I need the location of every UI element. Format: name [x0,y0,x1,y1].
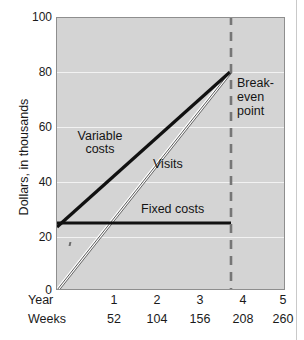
y-axis-tick-group: 100 80 60 40 20 0 [12,0,52,340]
x-tick-year-2: 2 [137,292,177,308]
y-tick-40: 40 [18,176,52,188]
x-axis-row-year: Year 1 2 3 4 5 [0,292,304,308]
break-even-point-label: Break- even point [237,76,299,118]
variable-costs-label: Variable costs [62,130,138,156]
x-tick-year-3: 3 [180,292,220,308]
x-tick-weeks-156: 156 [180,311,220,327]
y-tick-100: 100 [18,11,52,23]
break-even-chart-figure: Dollars, in thousands 100 80 60 40 20 0 [0,0,304,340]
visits-line-inner [57,72,230,290]
x-tick-year-4: 4 [223,292,263,308]
x-tick-weeks-260: 260 [263,311,303,327]
x-axis-row-year-label: Year [28,292,80,308]
x-axis-row-weeks: Weeks 52 104 156 208 260 [0,311,304,327]
fixed-costs-label: Fixed costs [141,203,227,216]
x-tick-weeks-52: 52 [94,311,134,327]
y-tick-80: 80 [18,66,52,78]
y-tick-60: 60 [18,121,52,133]
y-tick-20: 20 [18,231,52,243]
x-tick-weeks-208: 208 [223,311,263,327]
x-tick-weeks-104: 104 [137,311,177,327]
x-axis-row-weeks-label: Weeks [28,311,80,327]
x-tick-year-1: 1 [94,292,134,308]
page-rule-divider [296,0,297,340]
x-tick-year-5: 5 [263,292,303,308]
visits-label: Visits [153,158,207,171]
visits-line-group [57,72,232,290]
